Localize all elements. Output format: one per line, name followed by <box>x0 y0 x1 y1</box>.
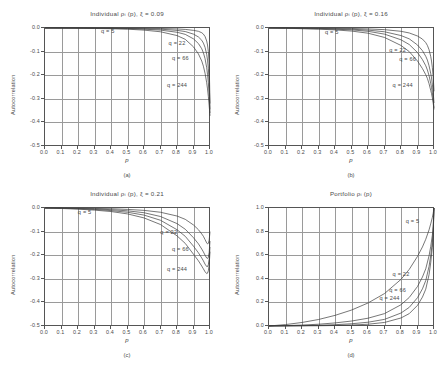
x-tick-label: 0.9 <box>188 149 196 155</box>
x-tick-mark <box>334 326 335 329</box>
y-tick-mark <box>41 207 44 208</box>
y-tick-mark <box>41 254 44 255</box>
curve-annotation: q = 244 <box>379 295 399 301</box>
y-tick-mark <box>41 51 44 52</box>
curve-annotation: q = 66 <box>172 55 189 61</box>
y-tick-label: -0.4 <box>236 118 264 124</box>
x-tick-label: 0.2 <box>297 329 305 335</box>
y-axis-label: Autocorrelation <box>10 74 16 115</box>
curve-annotation: q = 66 <box>399 56 416 62</box>
y-tick-label: -0.3 <box>236 95 264 101</box>
y-tick-label: 1.0 <box>236 204 264 210</box>
y-tick-label: -0.4 <box>12 118 40 124</box>
curve-annotation: q = 22 <box>160 229 177 235</box>
x-tick-label: 0.5 <box>346 149 354 155</box>
x-tick-label: 0.3 <box>313 329 321 335</box>
x-axis-label: p <box>349 157 352 163</box>
y-tick-mark <box>265 254 268 255</box>
y-axis-label: Autocorrelation <box>234 74 240 115</box>
x-tick-label: 0.6 <box>139 149 147 155</box>
x-tick-mark <box>417 326 418 329</box>
curve-q22 <box>269 28 434 103</box>
y-tick-mark <box>265 51 268 52</box>
x-tick-label: 0.5 <box>346 329 354 335</box>
x-tick-mark <box>176 146 177 149</box>
x-tick-mark <box>367 326 368 329</box>
x-tick-mark <box>143 146 144 149</box>
curve-q5 <box>269 208 434 326</box>
panel-caption: (d) <box>347 352 354 358</box>
y-axis-label: Autocorrelation <box>234 254 240 295</box>
x-tick-mark <box>110 146 111 149</box>
x-tick-label: 1.0 <box>205 149 213 155</box>
curve-layer <box>269 208 435 327</box>
x-tick-mark <box>367 146 368 149</box>
y-tick-mark <box>41 98 44 99</box>
panel-title: Portfolio ρᵢ (p) <box>268 190 434 197</box>
x-tick-mark <box>209 326 210 329</box>
y-tick-label: 0.2 <box>236 298 264 304</box>
x-tick-label: 0.0 <box>264 149 272 155</box>
x-tick-label: 0.6 <box>363 329 371 335</box>
x-tick-label: 0.2 <box>73 329 81 335</box>
x-tick-label: 1.0 <box>429 329 437 335</box>
y-tick-mark <box>265 121 268 122</box>
x-tick-label: 0.0 <box>40 329 48 335</box>
x-tick-mark <box>61 146 62 149</box>
x-tick-label: 0.9 <box>412 329 420 335</box>
x-tick-label: 0.7 <box>155 149 163 155</box>
x-tick-label: 1.0 <box>205 329 213 335</box>
y-tick-mark <box>265 325 268 326</box>
y-tick-mark <box>265 98 268 99</box>
curve-annotation: q = 244 <box>167 266 187 272</box>
x-tick-label: 0.5 <box>122 329 130 335</box>
x-tick-mark <box>318 326 319 329</box>
x-tick-mark <box>285 146 286 149</box>
x-tick-label: 0.1 <box>56 149 64 155</box>
x-tick-mark <box>384 326 385 329</box>
y-tick-label: -0.2 <box>12 251 40 257</box>
x-tick-mark <box>334 146 335 149</box>
y-tick-mark <box>41 278 44 279</box>
x-tick-label: 0.7 <box>379 329 387 335</box>
x-tick-label: 0.8 <box>172 149 180 155</box>
y-tick-label: -0.4 <box>12 298 40 304</box>
x-tick-mark <box>268 326 269 329</box>
x-tick-mark <box>44 146 45 149</box>
y-tick-label: 0.0 <box>236 322 264 328</box>
curve-annotation: q = 22 <box>389 47 406 53</box>
y-tick-mark <box>265 278 268 279</box>
y-tick-label: -0.3 <box>12 275 40 281</box>
y-tick-label: 0.0 <box>236 24 264 30</box>
x-tick-mark <box>127 146 128 149</box>
y-tick-label: -0.2 <box>236 71 264 77</box>
x-tick-mark <box>193 326 194 329</box>
y-tick-label: 0.0 <box>12 24 40 30</box>
x-tick-label: 0.8 <box>396 329 404 335</box>
x-tick-label: 0.3 <box>89 149 97 155</box>
x-tick-mark <box>61 326 62 329</box>
x-tick-mark <box>268 146 269 149</box>
curve-annotation: q = 5 <box>325 29 339 35</box>
y-tick-label: -0.5 <box>236 142 264 148</box>
curve-annotation: q = 66 <box>389 287 406 293</box>
x-tick-label: 0.8 <box>172 329 180 335</box>
y-tick-mark <box>265 207 268 208</box>
y-tick-mark <box>265 27 268 28</box>
x-tick-mark <box>193 146 194 149</box>
x-tick-mark <box>400 326 401 329</box>
y-tick-label: 0.0 <box>12 204 40 210</box>
y-tick-label: -0.1 <box>236 48 264 54</box>
x-tick-label: 0.4 <box>330 149 338 155</box>
panel-caption: (a) <box>123 172 130 178</box>
x-tick-label: 0.7 <box>155 329 163 335</box>
y-tick-mark <box>265 301 268 302</box>
x-tick-mark <box>351 326 352 329</box>
x-tick-mark <box>209 146 210 149</box>
y-tick-label: -0.5 <box>12 142 40 148</box>
x-tick-label: 0.6 <box>363 149 371 155</box>
x-axis-label: p <box>349 337 352 343</box>
x-tick-mark <box>384 146 385 149</box>
panel-b: Individual ρᵢ (p), ξ = 0.160.00.10.20.30… <box>228 10 440 175</box>
curve-annotation: q = 5 <box>78 209 92 215</box>
